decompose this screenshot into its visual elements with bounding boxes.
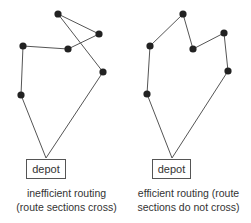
- caption-inefficient-line1: inefficient routing: [4, 186, 129, 200]
- stop-node-icon: [224, 67, 231, 74]
- stop-node-icon: [143, 90, 150, 97]
- caption-inefficient-line2: (route sections cross): [4, 200, 129, 214]
- stop-node-icon: [99, 68, 106, 75]
- stop-node-icon: [17, 91, 24, 98]
- caption-inefficient: inefficient routing (route sections cros…: [4, 186, 129, 214]
- stop-node-icon: [64, 45, 71, 52]
- caption-efficient-line1: efficient routing (route: [126, 186, 251, 200]
- stop-node-icon: [95, 30, 102, 37]
- route-path-efficient: [147, 14, 228, 158]
- route-path-inefficient: [21, 14, 103, 158]
- stop-node-icon: [220, 29, 227, 36]
- stop-node-icon: [189, 45, 196, 52]
- stop-node-icon: [179, 10, 186, 17]
- depot-box-efficient: depot: [152, 159, 191, 179]
- depot-box-inefficient: depot: [26, 159, 66, 179]
- stop-node-icon: [146, 42, 153, 49]
- stop-node-icon: [54, 10, 61, 17]
- caption-efficient-line2: sections do not cross): [126, 200, 251, 214]
- caption-efficient: efficient routing (route sections do not…: [126, 186, 251, 214]
- stop-node-icon: [19, 42, 26, 49]
